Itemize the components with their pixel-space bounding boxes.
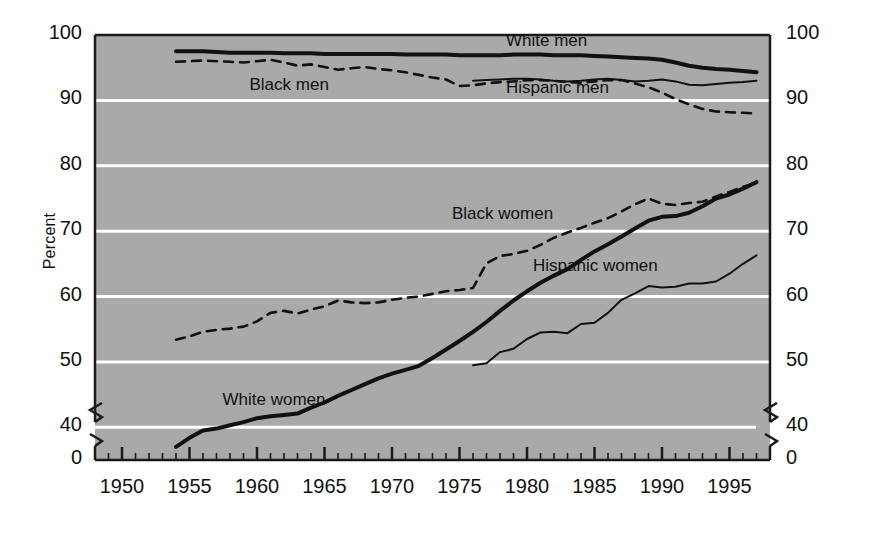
- y-tick-label-right-70: 70: [786, 217, 856, 240]
- y-tick-label-left-60: 60: [12, 283, 82, 306]
- y-tick-label-right-50: 50: [786, 348, 856, 371]
- y-tick-label-right-0: 0: [786, 446, 856, 469]
- series-label-white-women: White women: [223, 390, 326, 410]
- y-tick-label-left-100: 100: [12, 21, 82, 44]
- y-tick-label-left-80: 80: [12, 152, 82, 175]
- series-label-white-men: White men: [506, 31, 587, 51]
- chart-root: Percent 1009080706050400 100908070605040…: [0, 0, 873, 546]
- series-label-hispanic-women: Hispanic women: [533, 256, 658, 276]
- y-tick-label-left-0: 0: [12, 446, 82, 469]
- y-tick-label-right-80: 80: [786, 152, 856, 175]
- plot-background: [95, 35, 770, 460]
- series-label-hispanic-men: Hispanic men: [506, 78, 609, 98]
- x-tick-label-1995: 1995: [690, 475, 770, 498]
- y-tick-label-left-90: 90: [12, 86, 82, 109]
- y-tick-label-right-90: 90: [786, 86, 856, 109]
- y-tick-label-left-70: 70: [12, 217, 82, 240]
- series-label-black-men: Black men: [250, 75, 329, 95]
- y-tick-label-right-40: 40: [786, 413, 856, 436]
- series-label-black-women: Black women: [452, 204, 553, 224]
- y-tick-label-right-100: 100: [786, 21, 856, 44]
- y-tick-label-left-40: 40: [12, 413, 82, 436]
- y-tick-label-right-60: 60: [786, 283, 856, 306]
- y-tick-label-left-50: 50: [12, 348, 82, 371]
- chart-canvas: [0, 0, 873, 546]
